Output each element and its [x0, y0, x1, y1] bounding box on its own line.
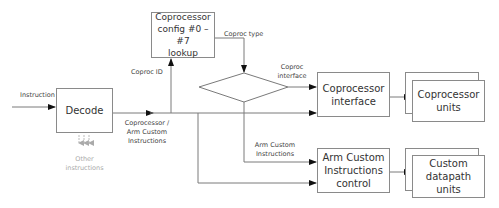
config-lookup-box: Coprocessor config #0 –#7 lookup	[151, 12, 215, 58]
arm-custom-control-box: Arm Custom Instructions control	[317, 148, 390, 193]
instruction-label: Instruction	[20, 91, 55, 100]
decode-label: Decode	[66, 104, 104, 117]
coprocessor-interface-box: Coprocessor interface	[317, 72, 390, 117]
arm-custom-instructions-label: Arm Custom Instructions	[250, 141, 300, 159]
coproc-interface-label: Coproc interface	[272, 63, 312, 81]
coproc-arm-custom-label: Coprocessor / Arm Custom Instructions	[117, 119, 177, 146]
coprocessor-interface-label: Coprocessor interface	[323, 82, 385, 108]
custom-datapath-units-box: Custom datapath units	[412, 155, 485, 198]
config-lookup-label: Coprocessor config #0 –#7 lookup	[152, 11, 214, 59]
decode-box: Decode	[56, 88, 113, 133]
custom-datapath-units-label: Custom datapath units	[413, 157, 484, 196]
arm-custom-control-label: Arm Custom Instructions control	[322, 151, 384, 190]
coproc-id-label: Coproc ID	[131, 68, 163, 77]
other-instructions-label: Other instructions	[62, 155, 107, 173]
coproc-type-label: Coproc type	[224, 30, 263, 39]
coprocessor-units-label: Coprocessor units	[418, 88, 480, 114]
coprocessor-units-box: Coprocessor units	[412, 80, 485, 122]
